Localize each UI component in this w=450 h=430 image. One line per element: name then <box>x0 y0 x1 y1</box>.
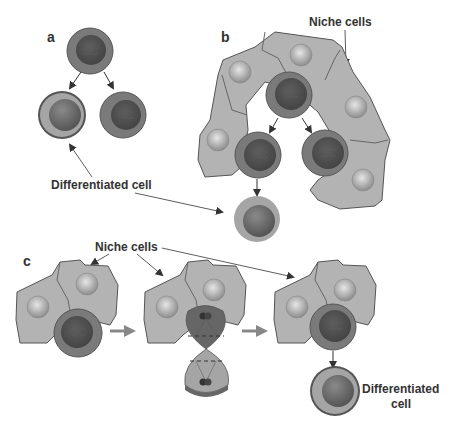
niche-cells-label-b: Niche cells <box>309 15 372 29</box>
niche-nucleus <box>286 296 308 318</box>
differentiated-cell-label: Differentiated cell <box>51 178 152 192</box>
stem-cell-b-parent: SC <box>266 72 312 118</box>
stem-cell-niche-diagram: a SC SC Differentiated cell b Niche c <box>0 0 450 430</box>
niche-nucleus <box>334 279 356 301</box>
stem-cell-label: SC <box>71 326 86 338</box>
stem-cell-label: SC <box>321 147 336 159</box>
stem-cell-label: SC <box>328 320 343 332</box>
stem-cell-label: SC <box>283 88 298 100</box>
stem-cell-label: SC <box>253 149 268 161</box>
stem-cell-b-left: SC <box>235 132 281 178</box>
differentiated-cell-label-c-line2: cell <box>391 397 411 411</box>
niche-nucleus <box>156 296 178 318</box>
niche-nucleus <box>207 129 229 151</box>
niche-pointer-c2 <box>137 254 162 275</box>
differentiated-cell-label-c: Differentiated <box>362 382 439 396</box>
niche-pointer-c1 <box>92 254 109 264</box>
division-arrow-right <box>104 72 113 88</box>
stem-cell-a-parent: SC <box>67 28 113 74</box>
differentiated-cell-b <box>234 196 280 242</box>
pointer-arrow-b <box>135 193 222 212</box>
stem-cell-b-right: SC <box>302 130 348 176</box>
niche-nucleus <box>352 169 374 191</box>
differentiated-cell-c <box>310 366 360 416</box>
niche-nucleus <box>76 273 98 295</box>
process-arrow-2 <box>242 325 268 337</box>
stem-cell-label: SC <box>118 109 133 121</box>
niche-nucleus <box>203 279 225 301</box>
process-arrow-1 <box>110 325 136 337</box>
niche-stage-3: SC Differentiated cell <box>274 260 439 416</box>
stem-cell-a-daughter: SC <box>100 92 146 138</box>
division-arrow-right <box>302 118 311 132</box>
differentiated-cell-a <box>38 91 86 139</box>
panel-label-b: b <box>221 29 230 45</box>
stem-cell-c3: SC <box>310 304 356 350</box>
niche-nucleus <box>345 96 367 118</box>
pointer-arrow-a <box>70 145 92 177</box>
division-arrow-left <box>70 72 81 88</box>
niche-stage-2 <box>144 260 246 397</box>
niche-nucleus <box>27 296 49 318</box>
panel-a: a SC SC Differentiated cell <box>38 28 222 212</box>
panel-c: c Niche cells SC <box>16 240 439 416</box>
panel-b: b Niche cells SC SC <box>198 15 390 242</box>
stem-cell-c1: SC <box>54 309 102 357</box>
division-arrow-left <box>270 118 278 132</box>
panel-label-a: a <box>47 29 55 45</box>
stem-cell-label: SC <box>83 45 98 57</box>
niche-nucleus <box>229 61 251 83</box>
panel-label-c: c <box>23 253 31 269</box>
dividing-stem-cell <box>185 306 229 398</box>
niche-nucleus <box>290 44 312 66</box>
niche-cells-arch <box>198 32 390 209</box>
niche-stage-1: SC <box>16 260 118 357</box>
niche-cells-label-c: Niche cells <box>95 240 158 254</box>
